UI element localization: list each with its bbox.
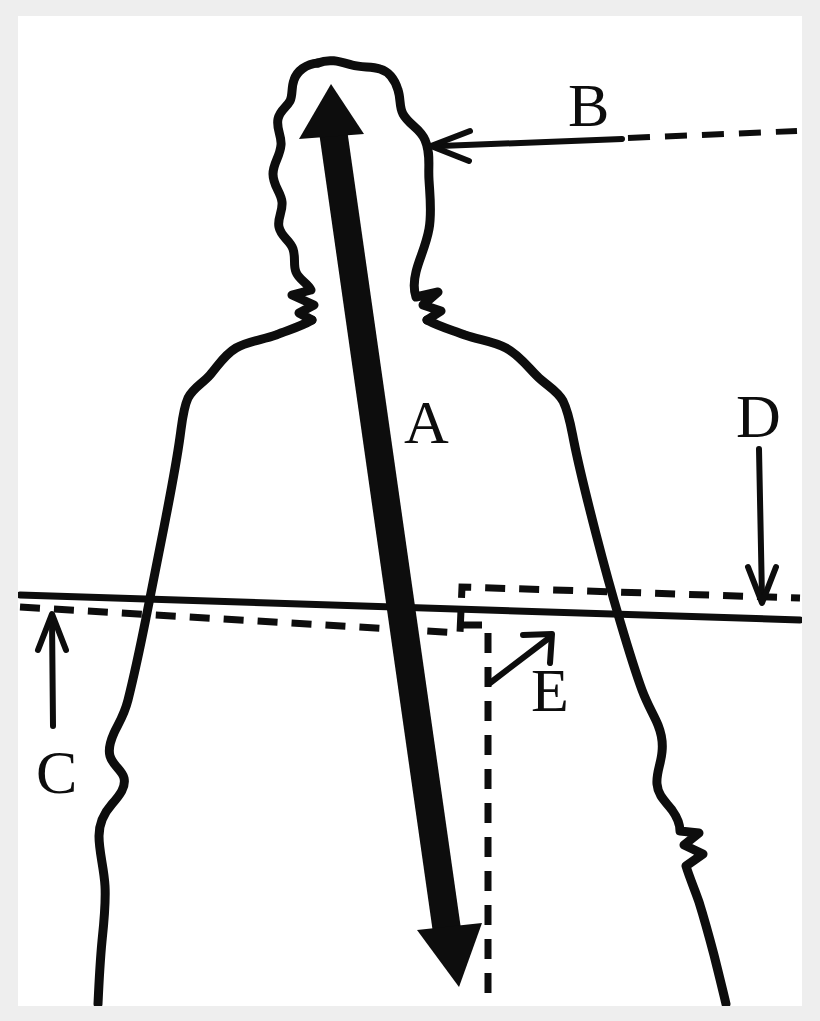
figure-root: A B C D E: [0, 0, 820, 1021]
d-arrow-shaft: [759, 449, 762, 598]
page-surface: [18, 16, 802, 1006]
label-d: D: [736, 382, 781, 450]
c-arrow-shaft: [52, 619, 53, 726]
label-c: C: [36, 738, 77, 806]
label-e: E: [531, 656, 569, 724]
diagram-canvas: A B C D E: [0, 0, 820, 1021]
label-a: A: [404, 388, 449, 456]
label-b: B: [568, 71, 609, 139]
